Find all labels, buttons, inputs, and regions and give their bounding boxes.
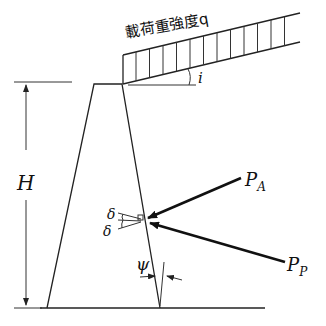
retaining-wall-diagram: H 載荷重強度q i PA PP δ δ ψ — [0, 0, 326, 326]
wall-outline — [47, 84, 160, 308]
slope-angle-arc — [188, 69, 190, 85]
active-force-arrow — [148, 178, 241, 218]
friction-angle-upper-label: δ — [107, 206, 115, 222]
wall-angle-arrow-right — [167, 276, 182, 280]
wall-angle-label: ψ — [136, 254, 150, 274]
passive-force-label: PP — [286, 254, 308, 279]
friction-angle-lower-label: δ — [103, 223, 111, 239]
passive-force-arrow — [150, 223, 285, 262]
slope-angle-label: i — [198, 69, 203, 87]
vertical-reference — [160, 262, 164, 306]
height-label: H — [16, 171, 35, 195]
wall-angle-arrow-left — [140, 276, 155, 277]
active-force-label: PA — [244, 169, 266, 194]
friction-angle-marks — [118, 213, 143, 229]
